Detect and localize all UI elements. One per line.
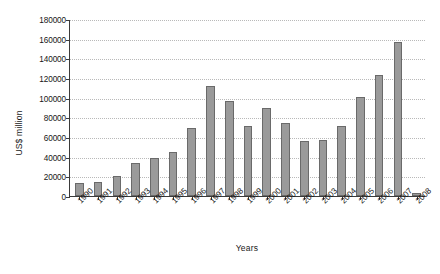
bar xyxy=(300,141,309,196)
bar xyxy=(281,123,290,196)
bar xyxy=(375,75,384,196)
y-tick-label: 20000 xyxy=(44,173,66,182)
y-axis-tick-labels: 0200004000060000800001000001200001400001… xyxy=(26,20,66,197)
bar xyxy=(225,101,234,196)
y-tick-mark xyxy=(66,20,70,21)
bar xyxy=(262,108,271,196)
bars-layer xyxy=(70,20,425,196)
bar xyxy=(206,86,215,196)
y-tick-label: 100000 xyxy=(39,94,66,103)
y-axis-title: US$ million xyxy=(14,88,24,178)
y-tick-mark xyxy=(66,79,70,80)
y-tick-mark xyxy=(66,118,70,119)
y-tick-label: 120000 xyxy=(39,75,66,84)
bar xyxy=(356,97,365,196)
y-tick-label: 80000 xyxy=(44,114,66,123)
y-tick-mark xyxy=(66,59,70,60)
bar xyxy=(150,158,159,196)
bar xyxy=(244,126,253,196)
x-axis-title: Years xyxy=(69,243,425,253)
y-tick-mark xyxy=(66,138,70,139)
y-tick-label: 40000 xyxy=(44,153,66,162)
y-tick-label: 60000 xyxy=(44,134,66,143)
y-tick-mark xyxy=(66,40,70,41)
y-tick-mark xyxy=(66,158,70,159)
x-axis-tick-labels: 1990199119921993199419951996199719981999… xyxy=(69,199,425,239)
plot-area xyxy=(69,20,425,197)
bar xyxy=(394,42,403,196)
y-tick-mark xyxy=(66,197,70,198)
y-tick-mark xyxy=(66,177,70,178)
bar xyxy=(169,152,178,196)
bar xyxy=(319,140,328,196)
y-tick-label: 180000 xyxy=(39,16,66,25)
bar-chart: US$ million 0200004000060000800001000001… xyxy=(0,0,440,274)
bar xyxy=(187,128,196,196)
y-tick-label: 160000 xyxy=(39,35,66,44)
bar xyxy=(131,163,140,196)
bar xyxy=(337,126,346,196)
y-tick-mark xyxy=(66,99,70,100)
y-tick-label: 140000 xyxy=(39,55,66,64)
